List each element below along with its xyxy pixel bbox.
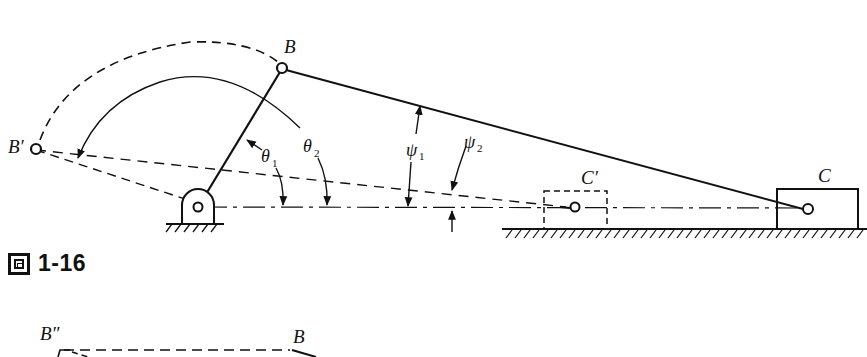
label-theta2-sub: 2	[314, 147, 320, 159]
label-theta1: θ	[261, 146, 270, 166]
label-theta1-sub: 1	[272, 157, 278, 169]
label-theta2: θ	[303, 136, 312, 156]
coupler-link-bc	[286, 70, 803, 209]
label-b: B	[284, 36, 296, 57]
label-b-double-prime: B″	[40, 323, 61, 344]
label-psi2-sub: 2	[477, 142, 483, 154]
figure-glyph-icon	[8, 253, 30, 275]
label-c: C	[818, 165, 831, 186]
label-b-prime: B′	[8, 136, 25, 157]
label-psi2: ψ	[464, 132, 476, 152]
ground-pivot-support	[166, 189, 224, 232]
lower-solid-link	[292, 350, 316, 357]
lower-corner-b-double-prime	[58, 350, 70, 357]
figure-caption: 1-16	[8, 250, 86, 277]
crank-link-ab	[200, 72, 280, 204]
label-psi1: ψ	[406, 140, 418, 160]
lower-dashed-diagonal	[72, 352, 88, 357]
slider-axis-centerline	[205, 207, 800, 208]
joint-c	[803, 204, 813, 214]
label-psi1-sub: 1	[419, 150, 425, 162]
joint-c-prime	[571, 203, 580, 212]
slider-ground-track	[502, 229, 867, 238]
slider-crank-diagram: B B′ C C′ θ 1 θ 2 ψ 1 ψ 2 B″ B	[0, 0, 867, 357]
slider-c	[777, 189, 858, 229]
joint-b-prime	[31, 144, 41, 154]
joint-b	[277, 63, 287, 73]
label-b-lower: B	[293, 326, 305, 347]
label-c-prime: C′	[581, 167, 599, 188]
extended-line-bprime-cprime	[36, 150, 566, 207]
figure-number: 1-16	[38, 250, 86, 277]
crank-circle-dashed-arc	[40, 42, 278, 140]
